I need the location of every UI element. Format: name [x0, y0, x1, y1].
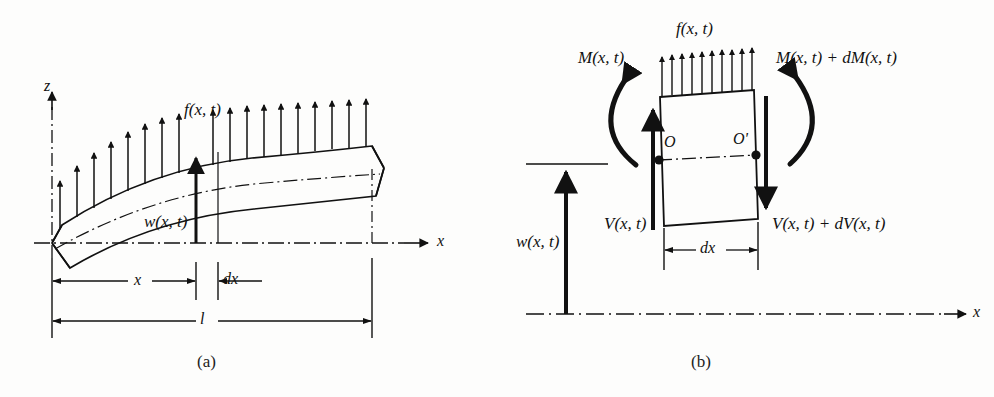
shear-left-label: V(x, t) [604, 215, 646, 232]
distributed-load-label-a: f(x, t) [184, 101, 221, 118]
distributed-load-label-b: f(x, t) [676, 20, 713, 37]
moment-right-label: M(x, t) + dM(x, t) [776, 49, 897, 66]
station-construction-lines [196, 152, 372, 243]
distributed-load-arrows-b [662, 48, 752, 96]
caption-b: (b) [691, 352, 711, 372]
deflection-label-a: w(x, t) [144, 213, 187, 230]
shear-right-label: V(x, t) + dV(x, t) [772, 215, 885, 232]
dimension-extension-lines-a [52, 258, 372, 338]
panel-b-drawing [526, 48, 966, 314]
dimension-dx-label-a: dx [223, 271, 238, 287]
moment-right-arc [790, 76, 812, 164]
beam-right-face-lower [376, 168, 384, 196]
beam-left-face-lower [52, 243, 70, 268]
element-neutral-axis [658, 155, 756, 160]
point-o-prime-marker [751, 150, 760, 159]
point-o-label: O [664, 134, 676, 150]
moment-left-arc [611, 80, 636, 165]
dimension-dx-label-b: dx [700, 240, 715, 256]
figure-container: z x f(x, t) w(x, t) x dx l (a) f(x, t) M… [0, 0, 994, 397]
x-axis-label-b: x [973, 304, 980, 320]
beam-right-face-upper [372, 146, 384, 168]
point-o-marker [654, 155, 663, 164]
x-axis-label-a: x [437, 233, 444, 249]
caption-a: (a) [197, 352, 216, 372]
z-axis-label: z [44, 78, 50, 94]
deflection-label-b: w(x, t) [516, 233, 559, 250]
panel-a-drawing [34, 92, 428, 338]
point-o-prime-label: O' [733, 131, 748, 147]
dimension-x-label: x [134, 272, 141, 288]
dimension-length-label: l [200, 311, 204, 327]
moment-left-label: M(x, t) [578, 49, 624, 66]
